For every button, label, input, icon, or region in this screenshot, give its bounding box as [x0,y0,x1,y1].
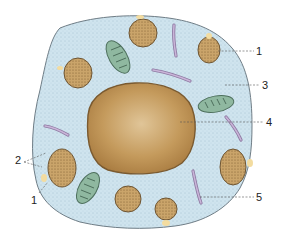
cell-diagram [0,0,289,238]
label-4: 4 [266,117,272,128]
label-1-top: 1 [256,46,262,57]
nucleus [88,83,196,174]
label-3: 3 [262,80,268,91]
label-1-bottom: 1 [31,195,37,206]
label-2: 2 [15,155,21,166]
label-5: 5 [256,192,262,203]
